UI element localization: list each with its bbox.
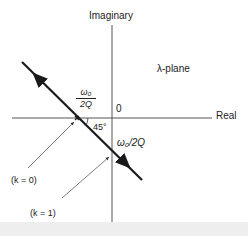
- locus-arrow-up-left: [34, 74, 40, 80]
- annotation-k1: (k = 1): [30, 209, 56, 218]
- intercept-label: ω₀/2Q: [117, 138, 145, 148]
- pole-fraction-numerator: ω₀: [76, 88, 96, 97]
- origin-label: 0: [116, 104, 122, 114]
- scan-bottom-band: [0, 222, 248, 236]
- angle-label: 45°: [93, 123, 107, 132]
- annotation-k0: (k = 0): [11, 176, 37, 185]
- locus-arrow-down-right: [122, 160, 129, 167]
- real-axis-label: Real: [216, 111, 237, 121]
- lambda-plane-diagram: [0, 0, 248, 236]
- k0-pointer: [28, 122, 74, 168]
- pole-fraction-denominator: 2Q: [76, 100, 96, 109]
- plane-label: λ-plane: [157, 64, 190, 74]
- k1-pointer: [62, 157, 109, 198]
- pole-fraction: ω₀ 2Q: [76, 88, 96, 109]
- imaginary-axis-label: Imaginary: [89, 11, 133, 21]
